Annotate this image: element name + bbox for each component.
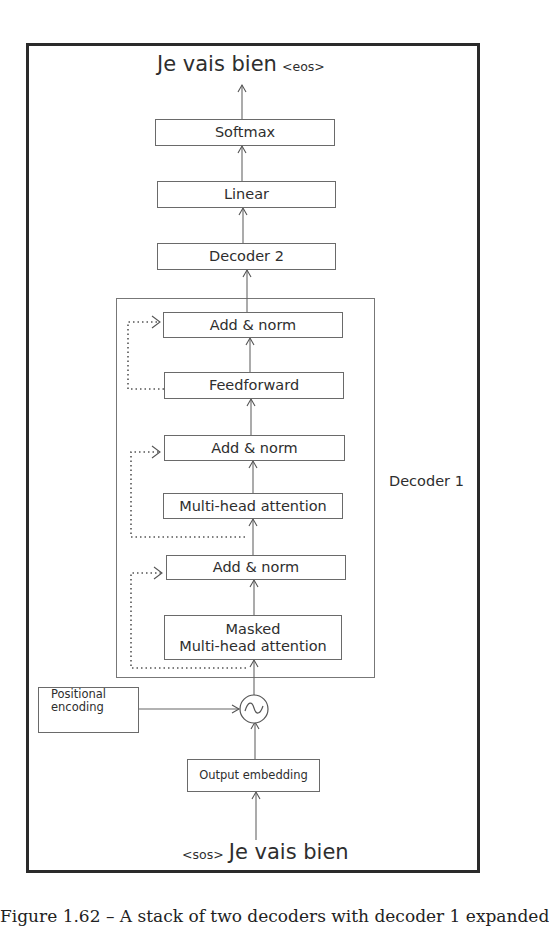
masked-multi-head-attention-box: Masked Multi-head attention	[164, 615, 342, 660]
positional-encoding-box: Positional encoding	[38, 687, 139, 733]
add-norm-mid-box: Add & norm	[164, 435, 345, 461]
sos-token: <sos>	[182, 847, 224, 862]
decoder-2-box: Decoder 2	[157, 243, 336, 270]
positional-encoding-line2: encoding	[51, 701, 104, 714]
add-norm-bottom-box: Add & norm	[166, 555, 346, 580]
masked-label-line2: Multi-head attention	[179, 638, 327, 655]
output-embedding-box: Output embedding	[187, 759, 320, 792]
masked-label-line1: Masked	[226, 621, 281, 638]
input-sentence-text: Je vais bien	[229, 840, 349, 864]
eos-token: <eos>	[282, 59, 325, 74]
softmax-box: Softmax	[155, 119, 335, 146]
linear-box: Linear	[157, 181, 336, 208]
decoder-1-label: Decoder 1	[389, 473, 464, 489]
figure-caption: Figure 1.62 – A stack of two decoders wi…	[0, 906, 504, 926]
add-norm-top-box: Add & norm	[163, 312, 343, 338]
input-sentence: <sos> Je vais bien	[182, 840, 349, 864]
output-sentence: Je vais bien <eos>	[157, 52, 325, 76]
feedforward-box: Feedforward	[164, 372, 344, 399]
output-sentence-text: Je vais bien	[157, 52, 277, 76]
multi-head-attention-box: Multi-head attention	[163, 493, 343, 519]
